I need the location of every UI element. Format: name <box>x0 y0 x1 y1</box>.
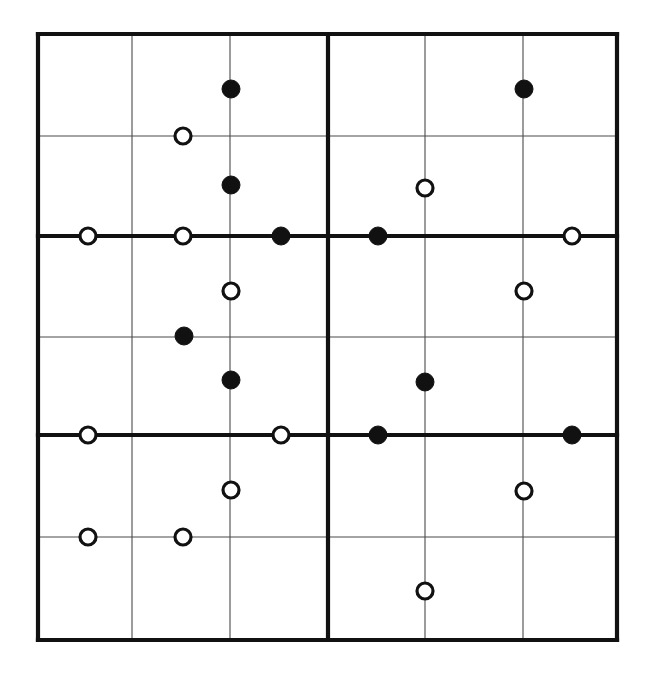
data-point-filled-4 <box>222 371 240 389</box>
data-point-open-10 <box>564 228 580 244</box>
data-point-open-0 <box>175 128 191 144</box>
data-point-open-11 <box>516 283 532 299</box>
data-point-open-5 <box>273 427 289 443</box>
data-point-filled-3 <box>175 327 193 345</box>
data-point-open-7 <box>80 529 96 545</box>
data-point-filled-7 <box>416 373 434 391</box>
data-point-filled-1 <box>222 176 240 194</box>
scatter-plot-figure <box>0 0 649 674</box>
data-point-filled-2 <box>272 227 290 245</box>
data-point-filled-8 <box>369 426 387 444</box>
data-point-filled-0 <box>222 80 240 98</box>
data-point-open-13 <box>417 583 433 599</box>
data-point-open-6 <box>223 482 239 498</box>
data-point-open-1 <box>80 228 96 244</box>
data-point-open-9 <box>417 180 433 196</box>
data-point-open-2 <box>175 228 191 244</box>
data-point-filled-6 <box>369 227 387 245</box>
data-point-filled-9 <box>563 426 581 444</box>
data-point-open-12 <box>516 483 532 499</box>
data-point-open-3 <box>223 283 239 299</box>
data-point-open-4 <box>80 427 96 443</box>
data-point-open-8 <box>175 529 191 545</box>
data-point-filled-5 <box>515 80 533 98</box>
figure-root <box>0 0 649 674</box>
